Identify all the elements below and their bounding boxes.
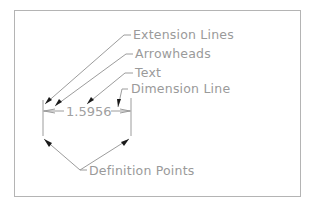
- label-extension-lines: Extension Lines: [133, 27, 234, 42]
- leader-dimension-line: [118, 89, 128, 107]
- label-definition-points: Definition Points: [89, 163, 194, 178]
- arrow-extension-lines-icon: [45, 97, 52, 104]
- leader-extension-lines: [45, 35, 131, 104]
- dimension-value: 1.5956: [66, 104, 112, 119]
- dimension-diagram: 1.5956 Extension Lines Arrowheads Text D…: [0, 0, 317, 206]
- label-arrowheads: Arrowheads: [135, 46, 211, 61]
- label-text: Text: [134, 65, 161, 80]
- label-dimension-line: Dimension Line: [131, 81, 230, 96]
- arrow-text-icon: [87, 97, 94, 104]
- arrow-dimension-line-icon: [117, 99, 121, 107]
- arrow-definition-left-icon: [44, 139, 52, 147]
- arrow-definition-right-icon: [121, 139, 129, 146]
- arrow-arrowheads-icon: [55, 99, 62, 106]
